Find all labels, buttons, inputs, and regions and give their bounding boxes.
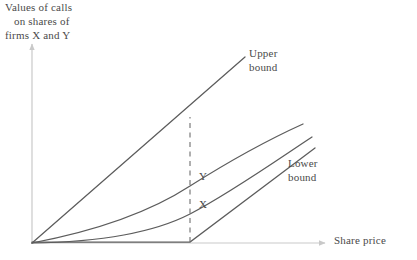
upper-bound-label-line2: bound	[249, 61, 278, 73]
curve-x-label: X	[199, 198, 207, 212]
upper-bound-label-line1: Upper	[249, 47, 278, 59]
y-axis-title-line2: on shares of	[5, 15, 72, 29]
lower-bound-label-line2: bound	[288, 171, 317, 183]
lower-bound-label-line1: Lower	[288, 157, 318, 169]
curve-y-label: Y	[199, 170, 207, 184]
y-axis-title-line1: Values of calls	[5, 1, 72, 13]
y-axis-title: Values of callson shares offirms X and Y	[5, 1, 72, 42]
lower-bound-line	[32, 148, 315, 242]
y-axis-title-line3: firms X and Y	[5, 29, 70, 41]
x-axis-title: Share price	[334, 234, 386, 248]
curve-x	[32, 137, 312, 243]
upper-bound-label: Upperbound	[249, 47, 278, 75]
upper-bound-line	[32, 57, 245, 243]
curve-y	[32, 124, 303, 243]
call-value-bounds-figure: Values of callson shares offirms X and Y…	[0, 0, 417, 260]
lower-bound-label: Lowerbound	[288, 157, 318, 185]
